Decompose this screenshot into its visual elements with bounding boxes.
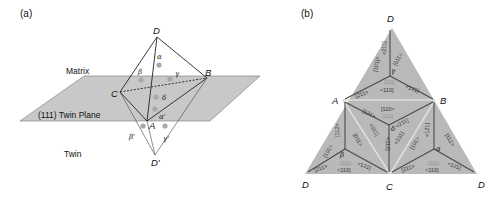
vertex-c: C <box>111 88 118 99</box>
delta-top-dir: [110> <box>381 106 395 112</box>
beta-name: β <box>339 151 344 159</box>
label-gamma-prime: γ' <box>163 135 169 143</box>
label-delta: δ <box>162 94 166 102</box>
delta-name: δ <box>391 125 395 133</box>
gamma-bottom-mid: <110] <box>380 87 394 93</box>
vertex-b: B <box>440 95 447 106</box>
matrix-label: Matrix <box>66 66 90 76</box>
unfolded-tetrahedron <box>305 28 477 174</box>
alpha-vert-dir: <121] <box>424 123 430 137</box>
label-alpha-prime: α' <box>159 113 166 121</box>
panel-a-label: (a) <box>20 8 32 19</box>
label-beta-prime: β' <box>128 133 135 141</box>
vertex-d-left: D <box>302 179 309 190</box>
vertex-a: A <box>148 120 155 131</box>
beta-plane: (111) <box>340 160 351 166</box>
panel-b-label: (b) <box>301 8 313 19</box>
label-alpha: α <box>157 53 162 61</box>
vertex-a: A <box>331 95 338 106</box>
delta-vert: <112] <box>385 137 391 151</box>
panel-a: (a) Matrix (111) Twin Plane Twin <box>20 8 260 168</box>
alpha-name: α <box>436 145 441 153</box>
beta-vert-dir: [112> <box>334 123 340 137</box>
beta-bottom-mid: <110] <box>337 167 351 173</box>
gamma-vert-dir: <211] <box>381 41 387 55</box>
panel-b: (b) D A <box>301 8 485 192</box>
alpha-plane: (111) <box>428 160 439 166</box>
vertex-d-right: D <box>478 179 485 190</box>
twin-plane-label: (111) Twin Plane <box>38 110 101 120</box>
vertex-d-top: D <box>387 13 394 24</box>
vertex-b: B <box>205 67 212 78</box>
twin-label: Twin <box>64 149 82 159</box>
vertex-d-prime: D' <box>151 157 161 168</box>
vertex-d: D <box>153 25 160 36</box>
delta-plane: (111) <box>382 113 393 119</box>
alpha-bottom-mid: <110] <box>425 167 439 173</box>
figure-canvas: (a) Matrix (111) Twin Plane Twin <box>0 0 502 201</box>
gamma-plane: (111) <box>384 79 395 85</box>
vertex-c: C <box>386 181 393 192</box>
label-beta: β <box>137 68 142 76</box>
